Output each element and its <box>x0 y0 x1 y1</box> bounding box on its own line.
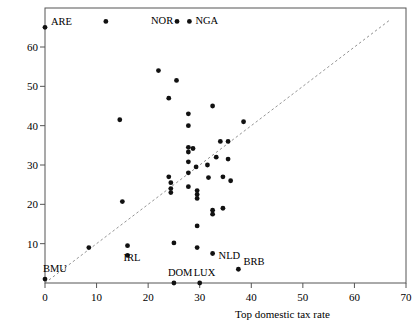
y-tick-label: 20 <box>12 198 38 210</box>
y-tick-label: 50 <box>12 80 38 92</box>
y-tick-label: 10 <box>12 238 38 250</box>
point-label-lux: LUX <box>194 267 216 278</box>
scatter-chart: 010203040506070102030405060 AREBMUIRLDOM… <box>0 0 415 324</box>
point-label-nga: NGA <box>195 15 218 26</box>
x-tick-label: 60 <box>349 291 360 303</box>
reference-line-45deg <box>45 19 391 283</box>
y-tick-label: 30 <box>12 159 38 171</box>
x-tick-label: 10 <box>91 291 102 303</box>
x-tick-label: 50 <box>297 291 308 303</box>
point-label-nor: NOR <box>151 15 173 26</box>
point-label-dom: DOM <box>168 267 193 278</box>
x-tick-label: 0 <box>42 291 48 303</box>
x-tick-label: 70 <box>401 291 412 303</box>
x-tick-label: 20 <box>143 291 154 303</box>
point-label-nld: NLD <box>219 250 241 261</box>
data-points <box>43 19 246 285</box>
x-axis-title: Top domestic tax rate <box>235 308 330 320</box>
point-label-are: ARE <box>51 16 72 27</box>
point-label-brb: BRB <box>243 256 264 267</box>
y-tick-label: 40 <box>12 120 38 132</box>
point-label-irl: IRL <box>124 252 141 263</box>
x-tick-label: 40 <box>246 291 257 303</box>
y-tick-label: 60 <box>12 41 38 53</box>
point-label-bmu: BMU <box>43 263 67 274</box>
x-tick-label: 30 <box>194 291 205 303</box>
